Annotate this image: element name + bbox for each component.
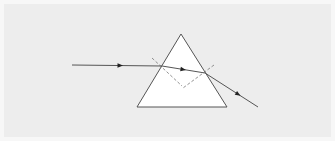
prism-refraction-diagram xyxy=(0,0,335,141)
diagram-canvas xyxy=(0,0,335,141)
incident-ray xyxy=(72,65,162,66)
arrowhead-icon xyxy=(235,91,242,98)
arrowhead-icon xyxy=(117,63,123,67)
